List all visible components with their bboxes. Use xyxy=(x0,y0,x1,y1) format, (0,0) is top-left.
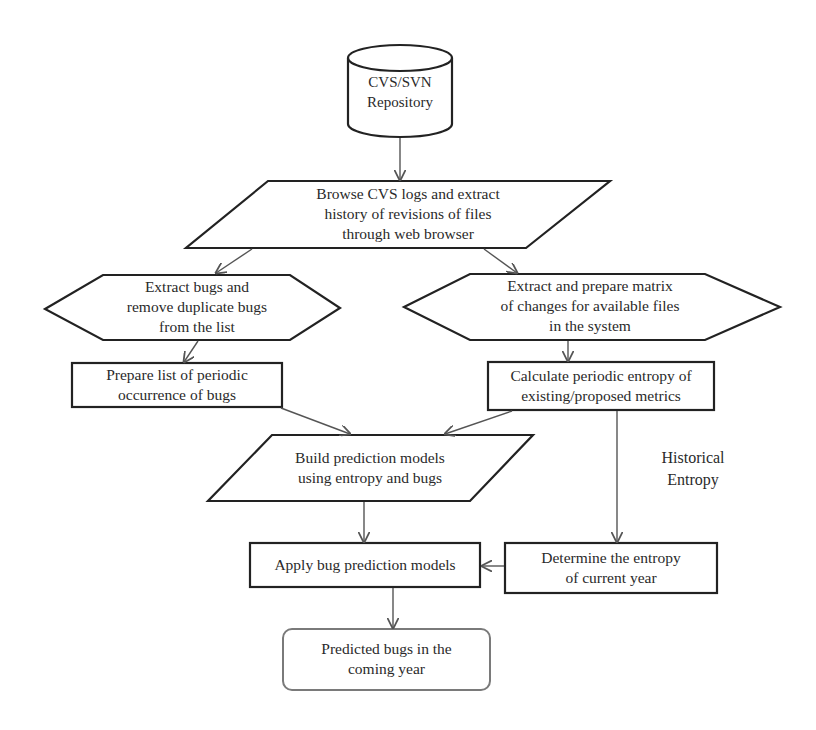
prepare-list-line-2: occurrence of bugs xyxy=(72,385,282,405)
determine-entropy-line-2: of current year xyxy=(505,568,717,588)
extract-matrix-line-3: in the system xyxy=(470,316,710,336)
browse-logs-line-2: history of revisions of files xyxy=(248,204,568,224)
predicted-bugs-label: Predicted bugs in the coming year xyxy=(283,639,490,679)
repository-label: CVS/SVN Repository xyxy=(350,72,450,112)
calculate-entropy-line-2: existing/proposed metrics xyxy=(488,386,714,406)
repository-line-2: Repository xyxy=(350,92,450,112)
predicted-bugs-line-1: Predicted bugs in the xyxy=(283,639,490,659)
determine-entropy-label: Determine the entropy of current year xyxy=(505,548,717,588)
edge-calculate-build xyxy=(445,411,512,434)
extract-bugs-line-3: from the list xyxy=(92,317,302,337)
historical-entropy-label: Historical Entropy xyxy=(638,447,748,491)
extract-bugs-label: Extract bugs and remove duplicate bugs f… xyxy=(92,277,302,337)
build-models-line-2: using entropy and bugs xyxy=(270,468,470,488)
predicted-bugs-line-2: coming year xyxy=(283,659,490,679)
historical-entropy-line-2: Entropy xyxy=(638,469,748,491)
extract-bugs-line-2: remove duplicate bugs xyxy=(92,297,302,317)
edge-browse-extract-matrix xyxy=(484,249,517,273)
edge-browse-extract-bugs xyxy=(216,249,252,273)
determine-entropy-line-1: Determine the entropy xyxy=(505,548,717,568)
build-models-label: Build prediction models using entropy an… xyxy=(270,448,470,488)
extract-bugs-line-1: Extract bugs and xyxy=(92,277,302,297)
extract-matrix-label: Extract and prepare matrix of changes fo… xyxy=(470,276,710,336)
apply-models-label: Apply bug prediction models xyxy=(250,555,480,575)
calculate-entropy-line-1: Calculate periodic entropy of xyxy=(488,366,714,386)
extract-matrix-line-1: Extract and prepare matrix xyxy=(470,276,710,296)
historical-entropy-line-1: Historical xyxy=(638,447,748,469)
extract-matrix-line-2: of changes for available files xyxy=(470,296,710,316)
calculate-entropy-label: Calculate periodic entropy of existing/p… xyxy=(488,366,714,406)
browse-logs-line-1: Browse CVS logs and extract xyxy=(248,184,568,204)
prepare-list-line-1: Prepare list of periodic xyxy=(72,365,282,385)
repository-line-1: CVS/SVN xyxy=(350,72,450,92)
edge-prepare-build xyxy=(281,408,350,434)
browse-logs-label: Browse CVS logs and extract history of r… xyxy=(248,184,568,244)
browse-logs-line-3: through web browser xyxy=(248,224,568,244)
edge-extract-bugs-prepare xyxy=(184,341,198,362)
prepare-list-label: Prepare list of periodic occurrence of b… xyxy=(72,365,282,405)
apply-models-line-1: Apply bug prediction models xyxy=(250,555,480,575)
build-models-line-1: Build prediction models xyxy=(270,448,470,468)
